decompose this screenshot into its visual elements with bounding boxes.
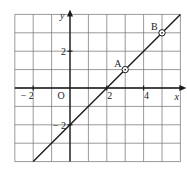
plot-svg: AB − 2242− 2Oxy xyxy=(0,0,187,176)
labeled-points: AB xyxy=(114,21,165,73)
point-label-a: A xyxy=(114,58,122,69)
coordinate-graph: AB − 2242− 2Oxy xyxy=(0,0,187,176)
y-axis-label: y xyxy=(59,10,65,21)
y-axis-arrow-icon xyxy=(67,9,73,16)
x-tick-label: 2 xyxy=(107,90,112,101)
x-axis-label: x xyxy=(173,91,179,102)
x-axis-arrow-icon xyxy=(179,85,186,91)
x-tick-label: 4 xyxy=(144,90,149,101)
origin-label: O xyxy=(57,90,64,101)
point-dot-a xyxy=(124,69,126,71)
y-tick-label: − 2 xyxy=(53,120,66,131)
y-tick-label: 2 xyxy=(61,46,66,57)
x-tick-label: − 2 xyxy=(21,90,34,101)
point-dot-b xyxy=(161,32,163,34)
point-label-b: B xyxy=(151,21,158,32)
